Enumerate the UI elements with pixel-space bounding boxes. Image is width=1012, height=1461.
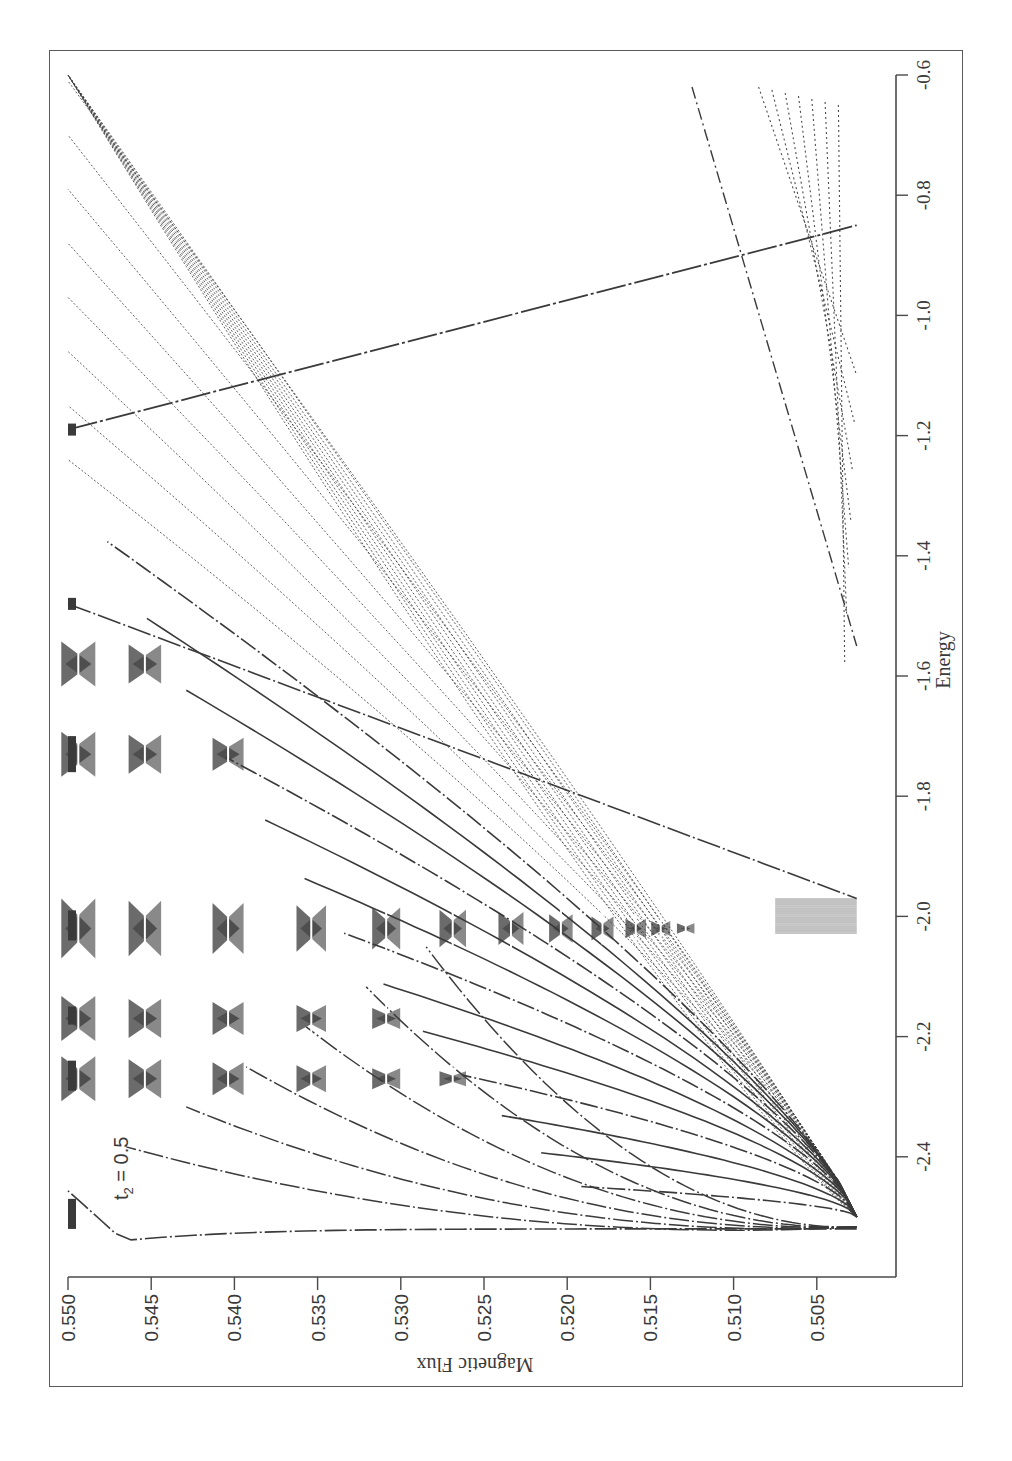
butterfly-lobe <box>443 1071 466 1086</box>
energy-tick-label: -2.0 <box>913 901 934 931</box>
flux-tick-label: 0.550 <box>58 1294 79 1342</box>
energy-tick-label: -1.8 <box>913 781 934 811</box>
spectrum-curve <box>692 87 857 646</box>
butterfly-lobe <box>553 914 573 943</box>
spectrum-curve <box>186 690 856 1217</box>
edge-band <box>68 736 76 772</box>
edge-band <box>68 1199 76 1229</box>
flux-tick-label: 0.515 <box>640 1294 661 1342</box>
butterfly-lobe <box>376 907 400 949</box>
figure: 0.5500.5450.5400.5350.5300.5250.5200.515… <box>0 0 1012 1461</box>
spectrum-curve <box>186 1107 857 1229</box>
flux-tick-label: 0.535 <box>308 1294 329 1342</box>
energy-tick-label: -0.6 <box>913 60 934 90</box>
spectrum-curve <box>306 1027 857 1228</box>
flux-tick-label: 0.505 <box>807 1294 828 1342</box>
energy-axis-label: Energy <box>932 631 955 688</box>
butterfly-lobe <box>301 1005 327 1032</box>
t2-annotation: t2 = 0.5 <box>110 1137 136 1200</box>
spectrum-data <box>61 75 856 1240</box>
spectrum-curve <box>126 1147 857 1230</box>
flux-axis-ticks: 0.5500.5450.5400.5350.5300.5250.5200.515… <box>58 1277 828 1342</box>
spectrum-curve <box>541 1153 857 1217</box>
spectrum-curve <box>772 90 855 424</box>
spectrum-curve <box>825 102 847 616</box>
spectrum-curve <box>384 984 857 1217</box>
spectrum-curve <box>68 460 857 1217</box>
flux-axis-label: Magnetic Flux <box>416 1353 533 1376</box>
flux-tick-label: 0.530 <box>391 1294 412 1342</box>
spectrum-curve <box>759 87 857 376</box>
flux-tick-label: 0.520 <box>557 1294 578 1342</box>
butterfly-lobe <box>301 905 327 952</box>
flux-tick-label: 0.540 <box>224 1294 245 1342</box>
spectrum-curve <box>68 352 857 1217</box>
butterfly-lobe <box>681 923 695 934</box>
energy-tick-label: -1.6 <box>913 661 934 691</box>
butterfly-lobe <box>376 1068 400 1089</box>
spectrum-curve <box>107 542 856 1217</box>
spectrum-curve <box>838 105 844 664</box>
energy-tick-label: -2.4 <box>913 1141 934 1172</box>
spectrum-curve <box>68 243 857 1217</box>
energy-tick-label: -1.4 <box>913 540 934 571</box>
spectrum-curve <box>426 947 857 1227</box>
flux-tick-label: 0.525 <box>474 1294 495 1342</box>
spectrum-curve <box>812 99 849 568</box>
flux-tick-label: 0.510 <box>724 1294 745 1342</box>
energy-tick-label: -1.2 <box>913 421 934 451</box>
spectrum-curve <box>68 81 857 1217</box>
spectrum-plot: 0.5500.5450.5400.5350.5300.5250.5200.515… <box>0 0 1012 1461</box>
edge-band <box>68 1061 76 1091</box>
edge-band <box>68 1007 76 1025</box>
butterfly-lobe <box>301 1065 327 1092</box>
spectrum-curve <box>344 933 857 1217</box>
spectrum-curve <box>68 189 857 1217</box>
energy-axis-ticks: -2.4-2.2-2.0-1.8-1.6-1.4-1.2-1.0-0.8-0.6 <box>896 60 934 1172</box>
spectrum-curve <box>265 820 857 1217</box>
flux-tick-label: 0.545 <box>141 1294 162 1342</box>
butterfly-lobe <box>595 916 613 940</box>
energy-tick-label: -2.2 <box>913 1022 934 1052</box>
spectrum-curve <box>68 604 857 899</box>
edge-band <box>68 910 76 940</box>
spectrum-curve <box>68 225 857 429</box>
butterfly-lobe <box>502 912 523 945</box>
spectrum-curve <box>785 93 853 472</box>
butterfly-lobe <box>376 1008 400 1029</box>
energy-tick-label: -0.8 <box>913 180 934 210</box>
energy-tick-label: -1.0 <box>913 300 934 330</box>
spectrum-curve <box>68 406 857 1217</box>
